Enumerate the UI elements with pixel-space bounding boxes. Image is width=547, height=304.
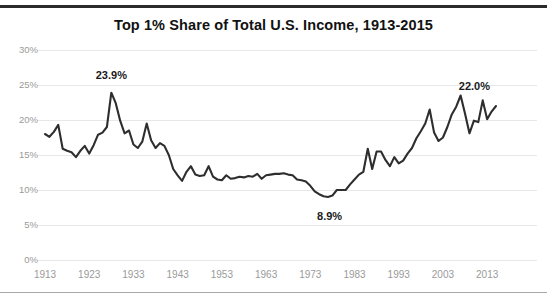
x-axis-tick-label: 1963	[255, 269, 278, 280]
data-annotation-label: 23.9%	[96, 69, 127, 81]
line-chart-svg: 30%25%20%15%10%5%0% 19131923193319431953…	[0, 0, 547, 304]
x-axis-tick-label: 1943	[167, 269, 190, 280]
data-annotation-label: 8.9%	[317, 210, 342, 222]
x-axis-tick-label: 2013	[476, 269, 499, 280]
y-axis-tick-label: 20%	[19, 114, 39, 125]
y-axis-tick-label: 25%	[19, 79, 39, 90]
x-axis-tick-label: 1993	[388, 269, 411, 280]
plot-area: 30%25%20%15%10%5%0% 19131923193319431953…	[0, 0, 547, 304]
y-axis-tick-label: 0%	[24, 254, 38, 265]
y-axis-tick-labels: 30%25%20%15%10%5%0%	[19, 44, 39, 265]
x-axis-tick-label: 1933	[122, 269, 145, 280]
x-axis-tick-label: 1973	[299, 269, 322, 280]
x-axis-tick-label: 1913	[34, 269, 57, 280]
x-axis-tick-labels: 1913192319331943195319631973198319932003…	[34, 269, 499, 280]
data-annotation-label: 22.0%	[459, 80, 490, 92]
y-axis-tick-label: 10%	[19, 184, 39, 195]
x-axis-tick-label: 2003	[432, 269, 455, 280]
y-axis-tick-label: 30%	[19, 44, 39, 55]
y-axis-tick-label: 15%	[19, 149, 39, 160]
income-share-line	[45, 93, 496, 197]
chart-container: Top 1% Share of Total U.S. Income, 1913-…	[0, 0, 547, 304]
x-axis-tick-label: 1923	[78, 269, 101, 280]
x-axis-tick-label: 1983	[343, 269, 366, 280]
y-axis-tick-label: 5%	[24, 219, 38, 230]
x-axis-tick-label: 1953	[211, 269, 234, 280]
